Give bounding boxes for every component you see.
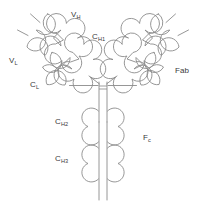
cl-domain-shape-right: [134, 53, 164, 86]
label-fc: Fc: [143, 134, 151, 142]
vl-nterminal-tail-right-2: [178, 30, 189, 36]
ch3-domain-left-lobe: [82, 145, 99, 182]
ch3-domain-right-lobe: [108, 145, 125, 182]
label-cl-sub: L: [36, 84, 39, 90]
label-cl: CL: [30, 81, 39, 89]
cl-domain-shape: [43, 53, 73, 86]
right-heavy-chain-connector: [107, 76, 118, 84]
vl-domain-shape: [27, 14, 61, 56]
label-vl: VL: [9, 57, 18, 65]
label-vl-sub: L: [14, 60, 17, 66]
antibody-structure-svg: [0, 0, 206, 206]
vl-nterminal-tail: [31, 14, 41, 23]
label-ch3-base: C: [55, 154, 61, 163]
vl-nterminal-tail-2: [18, 30, 29, 36]
label-ch2-base: C: [55, 117, 61, 126]
label-ch3: CH3: [55, 155, 68, 163]
ch2-domain-right-lobe: [108, 108, 125, 145]
ch2-domain-left-lobe: [82, 108, 99, 145]
label-ch1-base: C: [92, 32, 98, 41]
vl-nterminal-tail-right: [166, 14, 176, 23]
label-fab: Fab: [175, 67, 189, 75]
label-ch2: CH2: [55, 118, 68, 126]
label-fab-base: Fab: [175, 66, 189, 75]
label-vh: VH: [71, 11, 80, 19]
vl-domain-shape-right: [145, 14, 179, 56]
label-ch1-sub: H1: [98, 36, 105, 42]
label-cl-base: C: [30, 80, 36, 89]
label-ch1: CH1: [92, 33, 105, 41]
label-vh-sub: H: [76, 14, 80, 20]
antibody-diagram: VH CH1 VL CL Fab CH2 Fc CH3: [0, 0, 206, 206]
left-heavy-chain-connector: [89, 76, 100, 84]
label-ch2-sub: H2: [61, 121, 68, 127]
label-ch3-sub: H3: [61, 158, 68, 164]
label-fc-sub: c: [148, 137, 151, 143]
